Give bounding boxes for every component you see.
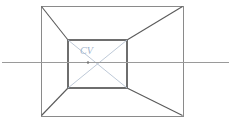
center-of-vision-label: CV [80,45,95,56]
orthogonal-top-left [42,7,69,41]
orthogonal-top-right [127,7,183,41]
outer-rectangle [41,6,183,116]
perspective-diagram-canvas: CV [0,0,233,127]
perspective-diagram: CV [0,0,233,127]
orthogonal-bottom-left [42,88,69,116]
orthogonal-bottom-right [127,88,183,116]
vanishing-point-marker [87,61,89,63]
